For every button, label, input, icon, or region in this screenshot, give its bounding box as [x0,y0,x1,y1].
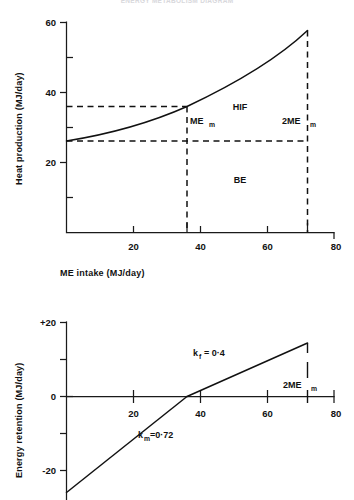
top-ytick-label-60: 60 [45,17,56,28]
bottom-annotation-2mem-sub: m [311,385,317,392]
top-heat-production-curve [67,31,308,142]
top-annotation-2mem: 2ME m [282,116,316,128]
top-y-axis-title: Heat production (MJ/day) [14,72,24,185]
bottom-ytick-label-zero: 0 [51,391,56,402]
top-xtick-label-80: 80 [331,241,342,252]
bottom-xtick-label-20: 20 [128,408,139,419]
top-ytick-label-20: 20 [45,157,56,168]
top-annotation-be: BE [234,175,247,185]
bottom-xtick-label-60: 60 [262,408,273,419]
top-annotation-mem-base: ME [190,116,204,126]
top-annotation-hif: HIF [233,102,248,112]
bottom-xtick-label-80: 80 [331,408,342,419]
bottom-ytick-label-plus20: +20 [40,317,56,328]
top-annotation-mem: ME m [190,116,215,128]
bottom-annotation-2mem-base: 2ME [283,380,302,390]
top-x-axis-title: ME intake (MJ/day) [60,268,145,278]
top-xtick-label-60: 60 [262,241,273,252]
top-annotation-2mem-sub: m [310,121,316,128]
top-xtick-label-40: 40 [195,241,206,252]
top-annotation-mem-sub: m [209,121,215,128]
bottom-annotation-km-value: =0·72 [150,430,173,440]
bottom-chart-panel: Energy retention (MJ/day) +20 0 -20 20 4… [0,300,354,500]
bottom-annotation-kf: k f = 0·4 [193,348,225,360]
bottom-retention-line-km [67,397,188,493]
top-chart-panel: Heat production (MJ/day) 60 40 20 20 40 … [0,0,354,285]
bottom-xtick-label-40: 40 [195,408,206,419]
bottom-annotation-kf-sub: f [199,353,202,360]
bottom-y-axis-title: Energy retention (MJ/day) [14,362,24,478]
top-xtick-label-20: 20 [128,241,139,252]
top-axis-frame [67,22,335,233]
bottom-annotation-2mem: 2ME m [283,380,317,392]
bottom-annotation-kf-value: = 0·4 [204,348,225,358]
top-ytick-label-40: 40 [45,87,56,98]
bottom-ytick-label-minus20: -20 [42,465,56,476]
top-annotation-2mem-base: 2ME [282,116,301,126]
